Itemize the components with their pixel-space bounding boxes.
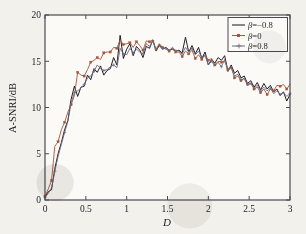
series-marker-1 [135,41,137,43]
series-marker-1 [50,179,52,181]
x-axis-label: D [162,216,171,228]
x-tick-label: 3 [288,204,293,214]
series-marker-1 [103,52,105,54]
x-tick-label: 1.5 [162,204,174,214]
series-marker-1 [129,42,131,44]
x-tick-label: 0 [43,204,48,214]
legend-label-1: β=0 [247,31,261,41]
series-marker-1 [116,47,118,49]
y-tick-label: 20 [32,10,42,20]
series-marker-1 [90,61,92,63]
y-tick-label: 10 [32,103,42,113]
series-marker-1 [286,88,288,90]
series-marker-1 [83,75,85,77]
y-tick-label: 0 [36,195,41,205]
y-tick-label: 15 [32,57,42,67]
series-marker-1 [122,44,124,46]
x-tick-label: 0.5 [80,204,92,214]
chart-canvas: 00.511.522.53 05101520 D A-SNRI/dB β=−0.… [0,0,306,234]
legend-label-2: β=0.8 [247,41,268,51]
series-marker-1 [57,141,59,143]
y-tick-label: 5 [36,149,41,159]
series-marker-1 [194,57,196,59]
legend-label-0: β=−0.8 [247,20,273,30]
legend[interactable]: β=−0.8β=0β=0.8 [228,18,288,52]
series-marker-1 [188,53,190,55]
series-marker-1 [181,56,183,58]
series-marker-1 [148,41,150,43]
x-tick-label: 2.5 [243,204,255,214]
series-marker-1 [64,121,66,123]
series-marker-1 [96,56,98,58]
y-axis-label: A-SNRI/dB [7,83,18,133]
series-marker-1 [175,51,177,53]
series-marker-1 [233,77,235,79]
figure-container: 00.511.522.53 05101520 D A-SNRI/dB β=−0.… [0,0,306,234]
series-marker-1 [220,61,222,63]
series-marker-1 [109,51,111,53]
series-marker-1 [207,59,209,61]
x-tick-label: 1 [124,204,129,214]
x-tick-label: 2 [206,204,211,214]
series-marker-1 [279,85,281,87]
series-marker-1 [77,71,79,73]
series-marker-1 [266,93,268,95]
